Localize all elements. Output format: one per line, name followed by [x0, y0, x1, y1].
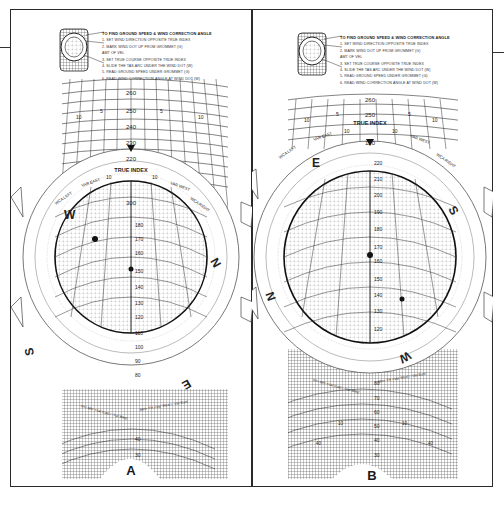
svg-text:5: 5 [100, 108, 103, 114]
svg-text:10: 10 [338, 421, 344, 426]
svg-text:300: 300 [126, 200, 137, 206]
mini-computer-icon [60, 29, 104, 71]
svg-text:30: 30 [374, 452, 380, 458]
svg-text:130: 130 [374, 308, 383, 314]
svg-text:10: 10 [402, 421, 408, 426]
instruction-step: 6. READ WIND CORRECTION ANGLE AT WIND DO… [340, 80, 450, 86]
svg-text:50: 50 [374, 423, 380, 429]
svg-text:10: 10 [304, 117, 310, 123]
svg-text:TRUE INDEX: TRUE INDEX [353, 120, 387, 126]
svg-text:120: 120 [365, 140, 376, 146]
grommet-b [367, 252, 373, 258]
panel-a: 260 250 240 230 220 10 5 5 10 TRUE INDEX… [10, 9, 252, 487]
svg-text:240: 240 [126, 124, 137, 130]
svg-text:120: 120 [135, 314, 144, 320]
svg-text:180: 180 [135, 222, 144, 228]
svg-text:230: 230 [126, 140, 137, 146]
leader-line-right [493, 52, 504, 53]
svg-text:260: 260 [365, 97, 376, 103]
svg-text:5: 5 [160, 108, 163, 114]
svg-text:10: 10 [432, 117, 438, 123]
svg-text:170: 170 [374, 244, 383, 250]
panel-label-a: A [121, 463, 141, 478]
svg-text:110: 110 [135, 330, 143, 336]
wind-dot-b [400, 297, 405, 302]
svg-text:10: 10 [198, 114, 204, 120]
svg-text:10: 10 [76, 114, 82, 120]
svg-text:130: 130 [135, 300, 144, 306]
svg-text:100: 100 [135, 344, 144, 350]
svg-text:40: 40 [135, 436, 141, 442]
svg-text:W: W [64, 208, 76, 222]
panel-label-b: B [362, 468, 382, 483]
svg-text:190: 190 [374, 209, 383, 215]
svg-text:220: 220 [126, 156, 137, 162]
svg-text:40: 40 [316, 441, 322, 446]
svg-text:10: 10 [152, 174, 158, 180]
svg-text:80: 80 [135, 372, 141, 378]
wind-dot-a [92, 236, 98, 242]
svg-text:180: 180 [374, 226, 383, 232]
svg-text:220: 220 [374, 160, 383, 166]
svg-text:40: 40 [428, 441, 434, 446]
svg-text:150: 150 [374, 276, 383, 282]
svg-text:250: 250 [126, 108, 137, 114]
svg-text:30: 30 [135, 452, 141, 458]
grommet-a [129, 267, 134, 272]
svg-text:120: 120 [374, 326, 383, 332]
panel-b: 260 250 10 5 5 10 TRUE INDEX 10 10 VAR E… [252, 9, 493, 487]
svg-text:40: 40 [374, 437, 380, 443]
svg-text:260: 260 [126, 90, 137, 96]
svg-text:10: 10 [106, 174, 112, 180]
svg-text:140: 140 [135, 284, 144, 290]
svg-text:90: 90 [135, 358, 141, 364]
svg-text:210: 210 [374, 176, 383, 182]
svg-text:10: 10 [344, 128, 350, 134]
svg-text:5: 5 [336, 111, 339, 117]
svg-text:S: S [22, 347, 37, 357]
instructions-b: TO FIND GROUND SPEED & WIND CORRECTION A… [340, 35, 450, 86]
instructions-a: TO FIND GROUND SPEED & WIND CORRECTION A… [102, 31, 212, 82]
svg-text:140: 140 [374, 292, 383, 298]
svg-text:200: 200 [374, 192, 383, 198]
svg-text:5: 5 [408, 111, 411, 117]
svg-text:250: 250 [365, 112, 376, 118]
svg-text:60: 60 [374, 409, 380, 415]
svg-text:160: 160 [374, 258, 383, 264]
svg-text:TRUE INDEX: TRUE INDEX [114, 167, 148, 173]
leader-line-left [0, 47, 10, 48]
svg-text:170: 170 [135, 236, 144, 242]
svg-text:160: 160 [135, 250, 144, 256]
svg-text:70: 70 [374, 395, 380, 401]
svg-text:150: 150 [135, 268, 144, 274]
instruction-step: 6. READ WIND CORRECTION ANGLE AT WIND DO… [102, 76, 212, 82]
svg-text:10: 10 [392, 128, 398, 134]
svg-text:E: E [312, 156, 320, 170]
